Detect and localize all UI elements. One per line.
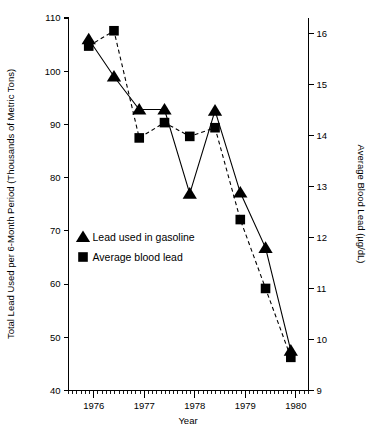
- lead-vs-blood-lead-line-chart: 405060708090100110 910111213141516 19761…: [0, 0, 373, 438]
- data-point-square: [286, 353, 296, 363]
- legend-label: Average blood lead: [93, 251, 183, 263]
- legend-label: Lead used in gasoline: [93, 231, 195, 243]
- y-axis-right-tick-label: 16: [317, 28, 328, 39]
- y-axis-right-tick-label: 11: [317, 283, 327, 294]
- data-point-square: [160, 118, 170, 128]
- series-markers-group: [82, 26, 298, 362]
- x-axis-major-tick-label: 1976: [83, 400, 104, 411]
- data-point-triangle: [208, 104, 222, 116]
- y-axis-right-tick-label: 10: [317, 334, 328, 345]
- y-axis-right-ticks: 910111213141516: [309, 28, 328, 396]
- data-point-triangle: [233, 186, 247, 198]
- data-point-square: [185, 132, 195, 142]
- y-axis-right-tick-label: 15: [317, 79, 328, 90]
- data-point-triangle: [183, 187, 197, 199]
- data-point-triangle: [157, 103, 171, 115]
- chart-legend: Lead used in gasolineAverage blood lead: [76, 230, 195, 262]
- x-axis-major-tick-label: 1979: [235, 400, 256, 411]
- data-point-triangle: [107, 70, 121, 82]
- y-axis-left-tick-label: 70: [50, 225, 61, 236]
- y-axis-right-tick-label: 13: [317, 181, 328, 192]
- data-point-square: [210, 123, 220, 133]
- y-axis-left-tick-label: 110: [45, 12, 60, 23]
- y-axis-left-ticks: 405060708090100110: [45, 12, 69, 396]
- plot-axes: [69, 18, 309, 391]
- data-point-square: [235, 215, 245, 225]
- y-axis-left-tick-label: 90: [50, 119, 61, 130]
- y-axis-right-title: Average Blood Lead (µg/dL): [356, 145, 367, 264]
- x-axis-major-tick-label: 1980: [285, 400, 306, 411]
- x-axis-title: Year: [178, 415, 197, 426]
- y-axis-left-tick-label: 50: [50, 332, 61, 343]
- legend-marker-square: [78, 252, 88, 262]
- data-point-triangle: [258, 241, 272, 253]
- y-axis-left-title: Total Lead Used per 6-Month Period (Thou…: [5, 69, 16, 339]
- y-axis-right-tick-label: 9: [317, 385, 322, 396]
- data-point-triangle: [132, 103, 146, 115]
- y-axis-left-tick-label: 40: [50, 385, 61, 396]
- y-axis-left-tick-label: 80: [50, 172, 61, 183]
- chart-container: 405060708090100110 910111213141516 19761…: [0, 0, 373, 438]
- y-axis-right-tick-label: 12: [317, 232, 328, 243]
- y-axis-left-tick-label: 100: [45, 66, 61, 77]
- data-point-square: [109, 26, 119, 36]
- data-point-square: [84, 41, 94, 51]
- y-axis-left-tick-label: 60: [50, 278, 61, 289]
- y-axis-right-tick-label: 14: [317, 130, 328, 141]
- data-point-square: [261, 284, 271, 294]
- legend-marker-triangle: [76, 230, 90, 242]
- x-axis-major-tick-label: 1978: [184, 400, 205, 411]
- x-axis-major-tick-label: 1977: [134, 400, 155, 411]
- data-point-square: [134, 133, 144, 143]
- x-axis-ticks: 19761977197819791980: [69, 391, 309, 411]
